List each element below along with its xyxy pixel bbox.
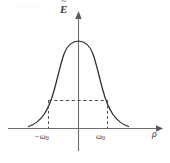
arrow-up-icon	[75, 11, 81, 19]
x-axis-label: ρ	[152, 129, 157, 139]
arrow-right-icon	[156, 125, 163, 131]
plot-canvas	[0, 0, 170, 163]
x-tick-label-omega-zero: ω0	[96, 132, 105, 141]
x-tick-right-subscript: 0	[102, 135, 105, 141]
y-axis-label: E	[60, 4, 67, 15]
x-tick-left-subscript: 0	[46, 135, 49, 141]
x-tick-left-base: −ω	[34, 131, 46, 141]
figure-container: E ρ −ω0 ω0	[0, 0, 170, 163]
y-axis-label-text: E	[60, 4, 67, 15]
x-tick-label-negative-omega-zero: −ω0	[34, 132, 49, 141]
